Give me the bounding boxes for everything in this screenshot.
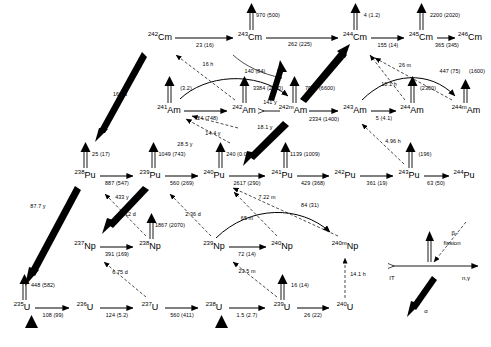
element-symbol: Cm [353, 32, 367, 42]
nuclide-u235[interactable]: 235U [14, 303, 31, 312]
mass-number: 239 [203, 240, 213, 246]
element-symbol: U [87, 302, 94, 312]
legend-axes [426, 231, 479, 266]
element-symbol: Np [213, 241, 225, 251]
decay-label: 140 (84) [245, 69, 266, 74]
element-symbol: U [24, 302, 31, 312]
decay-label: 2.12 d [120, 212, 136, 217]
nuclide-u238[interactable]: 238U [206, 303, 223, 312]
fission-label: 25 (17) [92, 152, 110, 157]
nuclide-cm242[interactable]: 242Cm [148, 33, 172, 42]
nuclide-pu238[interactable]: 238Pu [74, 171, 95, 180]
mass-number: 245 [409, 31, 419, 37]
capture-label: 365 (345) [435, 43, 459, 48]
nuclide-pu239[interactable]: 239Pu [139, 171, 160, 180]
nuclide-pu243[interactable]: 243Pu [398, 171, 419, 180]
capture-label: 429 (368) [301, 181, 325, 186]
element-symbol: Pu [214, 170, 225, 180]
element-symbol: Pu [282, 170, 293, 180]
nuclide-am244m[interactable]: 244mAm [452, 106, 481, 115]
nuclide-cm243[interactable]: 243Cm [238, 33, 262, 42]
decay-label: 14.4 y [205, 131, 220, 136]
mass-number: 243 [343, 104, 353, 110]
capture-label: 1.5 (2.7) [237, 313, 258, 318]
capture-label: 72 (14) [238, 252, 256, 257]
fission-label: (1600) [469, 69, 485, 74]
decay-label: 2.36 d [185, 212, 201, 217]
nuclide-np238[interactable]: 238Np [139, 242, 161, 251]
element-symbol: Cm [419, 32, 433, 42]
mass-number: 240m [332, 240, 347, 246]
nuclide-am244[interactable]: 244Am [400, 106, 424, 115]
mass-number: 239 [274, 301, 284, 307]
mass-number: 246 [458, 31, 468, 37]
mass-number: 241 [157, 104, 167, 110]
nuclide-u236[interactable]: 236U [77, 303, 94, 312]
element-symbol: Pu [85, 170, 96, 180]
nuclide-pu240[interactable]: 240Pu [203, 171, 224, 180]
element-symbol: Am [410, 105, 424, 115]
mass-number: 238 [206, 301, 216, 307]
decay-label: 18.1 y [257, 125, 272, 130]
element-symbol: U [216, 302, 223, 312]
element-symbol: Np [149, 241, 161, 251]
mass-number: 240 [271, 240, 281, 246]
fission-label: 4 (1.2) [364, 13, 380, 18]
capture-label: 361 (19) [367, 181, 388, 186]
nuclide-cm244[interactable]: 244Cm [343, 33, 367, 42]
nuclide-np237[interactable]: 237Np [74, 242, 96, 251]
nuclide-u239[interactable]: 239U [274, 303, 291, 312]
element-symbol: Np [84, 241, 96, 251]
element-symbol: Cm [248, 32, 262, 42]
decay-label: 447 (75) [440, 69, 461, 74]
mass-number: 243 [398, 169, 408, 175]
element-symbol: Am [242, 105, 256, 115]
mass-number: 237 [142, 301, 152, 307]
mass-number: 242m [279, 104, 294, 110]
decay-label: 4.96 h [385, 139, 401, 144]
nuclide-am241[interactable]: 241Am [157, 106, 181, 115]
nuclide-pu241[interactable]: 241Pu [271, 171, 292, 180]
nuclide-np240[interactable]: 240Np [271, 242, 293, 251]
decay-label: 14.1 h [350, 272, 366, 277]
capture-label: 560 (269) [170, 181, 194, 186]
decay-label: 6.75 d [112, 270, 128, 275]
fission-label: 16 (14) [291, 283, 309, 288]
decay-label: 141 y [263, 100, 277, 105]
mass-number: 236 [77, 301, 87, 307]
capture-label: 108 (99) [43, 313, 64, 318]
legend-alpha-label: α [424, 308, 427, 314]
mass-number: 244 [453, 169, 463, 175]
mass-number: 244m [452, 104, 467, 110]
legend-it-label: IT [389, 275, 394, 281]
nuclide-u240[interactable]: 240U [337, 303, 354, 312]
fission-label: 2200 (2020) [430, 13, 460, 18]
legend-fission-label: fission [443, 240, 460, 246]
decay-label: 87.7 y [30, 204, 45, 209]
capture-label: 155 (14) [378, 43, 399, 48]
nuclide-pu244[interactable]: 244Pu [453, 171, 474, 180]
nuclide-cm246[interactable]: 246Cm [458, 33, 482, 42]
decay-label: 7.22 m [258, 195, 275, 200]
nuclide-am242[interactable]: 242Am [232, 106, 256, 115]
element-symbol: Am [294, 105, 308, 115]
nuclide-np240m[interactable]: 240mNp [332, 242, 359, 251]
fission-label: 1049 (743) [158, 152, 185, 157]
decay-label: 433 y [115, 195, 129, 200]
mass-number: 240 [337, 301, 347, 307]
fission-label: 970 (500) [256, 13, 280, 18]
nuclide-u237[interactable]: 237U [142, 303, 159, 312]
element-symbol: Pu [150, 170, 161, 180]
element-symbol: Am [167, 105, 181, 115]
capture-label: 5 (4.1) [376, 116, 392, 121]
nuclide-np239[interactable]: 239Np [203, 242, 225, 251]
fission-label: (2300) [420, 86, 436, 91]
nuclide-cm245[interactable]: 245Cm [409, 33, 433, 42]
mass-number: 242 [148, 31, 158, 37]
nuclide-am242m[interactable]: 242mAm [279, 106, 308, 115]
mass-number: 241 [271, 169, 281, 175]
element-symbol: U [347, 302, 354, 312]
nuclide-am243[interactable]: 243Am [343, 106, 367, 115]
nuclide-pu242[interactable]: 242Pu [334, 171, 355, 180]
legend-ngamma-label: n,γ [462, 275, 470, 281]
